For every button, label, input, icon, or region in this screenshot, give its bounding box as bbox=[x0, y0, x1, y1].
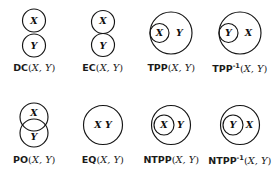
caption-eq-close-paren: ) bbox=[120, 154, 124, 165]
diagram-ntpp-inverse: Y X bbox=[206, 95, 274, 155]
label-y: Y bbox=[225, 27, 233, 38]
label-y: Y bbox=[176, 27, 184, 38]
relation-cell-ec: X Y EC(X, Y) bbox=[69, 0, 138, 92]
diagram-tpp-inverse: Y X bbox=[206, 3, 274, 63]
caption-dc: DC(X, Y) bbox=[13, 63, 55, 73]
diagram-po: X Y bbox=[0, 95, 68, 155]
caption-dc-args: X, Y bbox=[32, 62, 52, 73]
caption-dc-close-paren: ) bbox=[52, 62, 56, 73]
caption-ec-relation: EC bbox=[82, 62, 95, 73]
diagram-ec: X Y bbox=[69, 3, 137, 63]
label-x: X bbox=[245, 119, 254, 130]
caption-po-close-paren: ) bbox=[52, 154, 56, 165]
caption-tpp-args: X, Y bbox=[172, 62, 192, 73]
caption-po: PO(X, Y) bbox=[13, 155, 55, 165]
relation-cell-po: X Y PO(X, Y) bbox=[0, 92, 69, 184]
caption-eq-args: X, Y bbox=[100, 154, 120, 165]
caption-po-relation: PO bbox=[13, 154, 28, 165]
label-x: X bbox=[30, 106, 39, 117]
relation-cell-dc: X Y DC(X, Y) bbox=[0, 0, 69, 92]
caption-tpp-relation: TPP bbox=[147, 62, 167, 73]
label-y: Y bbox=[31, 40, 39, 51]
rcc8-relations-figure: X Y DC(X, Y) X Y EC(X, Y) bbox=[0, 0, 274, 183]
caption-tppi-close-paren: ) bbox=[263, 63, 267, 74]
caption-ntpp-args: X, Y bbox=[176, 154, 196, 165]
diagram-tpp: X Y bbox=[137, 3, 205, 63]
relation-cell-ntpp: X Y NTPP(X, Y) bbox=[137, 92, 206, 184]
caption-ec: EC(X, Y) bbox=[82, 63, 123, 73]
caption-po-args: X, Y bbox=[32, 154, 52, 165]
caption-tpp-close-paren: ) bbox=[191, 62, 195, 73]
relation-cell-tpp-inverse: Y X TPP-1(X, Y) bbox=[206, 0, 275, 92]
caption-dc-relation: DC bbox=[13, 62, 28, 73]
caption-ntppi-superscript: -1 bbox=[237, 154, 244, 162]
label-x: X bbox=[160, 119, 169, 130]
circle-y-outer bbox=[152, 105, 191, 144]
relation-cell-eq: X Y EQ(X, Y) bbox=[69, 92, 138, 184]
caption-eq-relation: EQ bbox=[82, 154, 97, 165]
caption-ntppi-args: X, Y bbox=[248, 155, 268, 166]
caption-eq: EQ(X, Y) bbox=[82, 155, 124, 165]
caption-tpp: TPP(X, Y) bbox=[147, 63, 195, 73]
caption-ntppi-relation: NTPP bbox=[208, 155, 236, 166]
label-y: Y bbox=[177, 119, 185, 130]
caption-ntpp-relation: NTPP bbox=[143, 154, 171, 165]
caption-tppi-args: X, Y bbox=[244, 63, 264, 74]
label-y: Y bbox=[229, 119, 237, 130]
caption-ntpp-inverse: NTPP-1(X, Y) bbox=[208, 155, 271, 166]
relation-cell-ntpp-inverse: Y X NTPP-1(X, Y) bbox=[206, 92, 275, 184]
diagram-ntpp: X Y bbox=[137, 95, 205, 155]
caption-tppi-relation: TPP bbox=[212, 63, 232, 74]
caption-ntppi-close-paren: ) bbox=[267, 155, 271, 166]
label-xy: X Y bbox=[93, 119, 113, 130]
caption-tppi-superscript: -1 bbox=[233, 62, 240, 70]
label-x: X bbox=[155, 27, 164, 38]
label-x: X bbox=[244, 27, 253, 38]
label-x: X bbox=[98, 15, 107, 26]
circle-x-outer bbox=[220, 105, 259, 144]
diagram-dc: X Y bbox=[0, 3, 68, 63]
caption-ntpp: NTPP(X, Y) bbox=[143, 155, 199, 165]
caption-ec-args: X, Y bbox=[100, 62, 120, 73]
label-x: X bbox=[30, 15, 39, 26]
relation-cell-tpp: X Y TPP(X, Y) bbox=[137, 0, 206, 92]
label-y: Y bbox=[31, 131, 39, 142]
caption-tpp-inverse: TPP-1(X, Y) bbox=[212, 63, 267, 74]
label-y: Y bbox=[99, 40, 107, 51]
relation-grid: X Y DC(X, Y) X Y EC(X, Y) bbox=[0, 0, 274, 183]
caption-ec-close-paren: ) bbox=[119, 62, 123, 73]
diagram-eq: X Y bbox=[69, 95, 137, 155]
caption-ntpp-close-paren: ) bbox=[195, 154, 199, 165]
